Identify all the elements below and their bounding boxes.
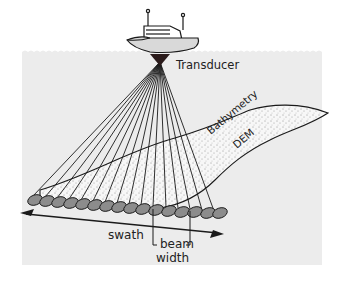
beam-label: beam	[160, 238, 194, 250]
survey-boat-icon	[127, 9, 199, 52]
diagram: Transducer Bathymetry DEM swath beam wid…	[0, 0, 344, 281]
transducer-label: Transducer	[176, 60, 239, 72]
swath-label: swath	[108, 229, 144, 241]
width-label: width	[156, 252, 189, 264]
